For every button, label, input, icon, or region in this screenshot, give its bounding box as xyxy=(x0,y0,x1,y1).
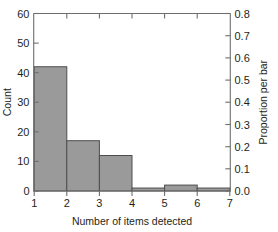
y2-axis-title: Proportion per bar xyxy=(257,59,269,144)
chart-canvas: 0 10 20 30 40 50 60 0.0 0.1 0.2 0.3 0.4 xyxy=(0,0,278,232)
xtick-label-5: 5 xyxy=(162,197,168,209)
y2tick-label-8: 0.8 xyxy=(235,8,250,20)
bar-5 xyxy=(165,185,198,191)
y2tick-label-2: 0.2 xyxy=(235,141,250,153)
x-axis-title: Number of items detected xyxy=(72,215,192,227)
right-axis-tick-labels: 0.0 0.1 0.2 0.3 0.4 0.5 0.6 0.7 0.8 xyxy=(235,8,250,198)
bar-2 xyxy=(67,141,100,191)
xtick-label-1: 1 xyxy=(31,197,37,209)
bar-3 xyxy=(99,156,132,192)
ytick-label-60: 60 xyxy=(17,8,29,20)
ytick-label-20: 20 xyxy=(17,126,29,138)
xtick-label-6: 6 xyxy=(194,197,200,209)
y2tick-label-6: 0.6 xyxy=(235,52,250,64)
histogram-figure: 0 10 20 30 40 50 60 0.0 0.1 0.2 0.3 0.4 xyxy=(0,0,278,232)
y-axis-title: Count xyxy=(2,88,14,116)
bar-1 xyxy=(34,67,67,191)
ytick-label-10: 10 xyxy=(17,155,29,167)
ytick-label-0: 0 xyxy=(23,185,29,197)
ytick-label-50: 50 xyxy=(17,37,29,49)
y2tick-label-4: 0.4 xyxy=(235,96,250,108)
xtick-label-7: 7 xyxy=(227,197,233,209)
y2tick-label-0: 0.0 xyxy=(235,185,250,197)
y2tick-label-3: 0.3 xyxy=(235,119,250,131)
ytick-label-40: 40 xyxy=(17,67,29,79)
xtick-label-4: 4 xyxy=(129,197,135,209)
y2tick-label-7: 0.7 xyxy=(235,30,250,42)
y2tick-label-1: 0.1 xyxy=(235,163,250,175)
xtick-label-3: 3 xyxy=(96,197,102,209)
xtick-label-2: 2 xyxy=(64,197,70,209)
y2tick-label-5: 0.5 xyxy=(235,74,250,86)
ytick-label-30: 30 xyxy=(17,96,29,108)
